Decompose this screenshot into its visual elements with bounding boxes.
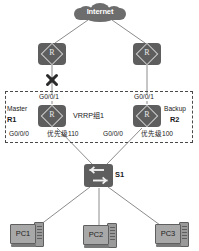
router-r1-icon[interactable]: R xyxy=(38,105,66,127)
router-glyph-r: R xyxy=(133,48,161,57)
network-topology-diagram: Internet R R G0/0/1 G0/0/1 R Master R1 G… xyxy=(0,0,199,251)
host-pc2-icon[interactable]: PC2 xyxy=(83,223,119,250)
r1-priority-label: 优先级110 xyxy=(47,131,79,138)
switch-s1-label: S1 xyxy=(115,170,124,179)
r2-priority-label: 优先级100 xyxy=(141,131,173,138)
host-pc1-label: PC1 xyxy=(10,229,36,238)
switch-arrows-icon xyxy=(84,164,113,187)
link-cloud-to-core-left xyxy=(55,20,88,43)
r2-name-label: R2 xyxy=(170,116,179,123)
host-pc3-label: PC3 xyxy=(155,229,181,238)
vrrp-group-label: VRRP组1 xyxy=(73,112,104,119)
switch-s1-icon[interactable] xyxy=(84,164,113,187)
host-pc1-icon[interactable]: PC1 xyxy=(10,222,46,249)
core-router-right-icon[interactable]: R xyxy=(133,43,161,65)
pc-base xyxy=(156,244,181,247)
host-pc3-icon[interactable]: PC3 xyxy=(155,222,191,249)
core-router-left-icon[interactable]: R xyxy=(38,43,66,65)
r1-downlink-interface-label: G0/0/0 xyxy=(9,131,29,138)
r2-role-label: Backup xyxy=(164,106,186,113)
pc-base xyxy=(11,244,36,247)
router-r2-icon[interactable]: R xyxy=(133,105,161,127)
r1-uplink-interface-label: G0/0/1 xyxy=(38,94,60,101)
link-s1-to-pc3 xyxy=(108,187,160,225)
internet-label: Internet xyxy=(74,7,126,16)
r2-uplink-interface-label: G0/0/1 xyxy=(133,94,155,101)
pc-base xyxy=(84,245,109,248)
link-failure-x-icon xyxy=(45,73,59,87)
r1-role-label: Master xyxy=(7,106,27,113)
host-pc2-label: PC2 xyxy=(83,230,109,239)
router-glyph-r: R xyxy=(133,110,161,119)
link-cloud-to-core-right xyxy=(112,20,145,43)
r1-name-label: R1 xyxy=(7,116,16,123)
router-glyph-r: R xyxy=(38,110,66,119)
router-glyph-r: R xyxy=(38,48,66,57)
link-s1-to-pc1 xyxy=(40,187,90,225)
r2-downlink-interface-label: G0/0/0 xyxy=(103,131,123,138)
internet-cloud: Internet xyxy=(74,3,126,22)
